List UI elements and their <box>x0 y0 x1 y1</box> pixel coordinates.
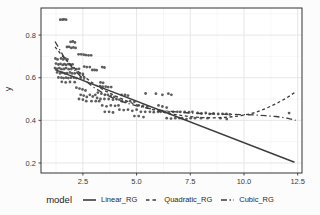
legend-title: model <box>46 194 72 205</box>
scatter-point <box>142 116 145 119</box>
legend-label-quadratic: Quadratic_RG <box>164 195 212 204</box>
scatter-point <box>144 110 147 113</box>
scatter-point <box>104 85 107 88</box>
scatter-point <box>77 53 80 56</box>
scatter-point <box>75 86 78 89</box>
scatter-point <box>94 93 97 96</box>
scatter-point <box>60 68 63 71</box>
scatter-point <box>108 110 111 113</box>
scatter-point <box>79 93 82 96</box>
legend-label-cubic: Cubic_RG <box>239 195 274 204</box>
scatter-point <box>90 100 93 103</box>
scatter-point <box>85 96 88 99</box>
scatter-point <box>94 100 97 103</box>
scatter-point <box>157 104 160 107</box>
scatter-point <box>122 109 125 112</box>
scatter-point <box>67 68 70 71</box>
x-tick-label: 2.5 <box>78 177 88 186</box>
scatter-point <box>118 108 121 111</box>
scatter-point <box>90 54 93 57</box>
scatter-point <box>133 115 136 118</box>
scatter-point <box>167 92 170 95</box>
scatter-point <box>112 98 115 101</box>
scatter-point <box>101 104 104 107</box>
scatter-point <box>105 105 108 108</box>
scatter-point <box>131 109 134 112</box>
scatter-point <box>127 94 130 97</box>
scatter-point <box>80 53 83 56</box>
scatter-point <box>170 93 173 96</box>
scatter-point <box>102 81 105 84</box>
scatter-point <box>103 110 106 113</box>
scatter-point <box>127 108 130 111</box>
scatter-point <box>161 93 164 96</box>
scatter-point <box>85 66 88 69</box>
legend-label-linear: Linear_RG <box>101 195 137 204</box>
scatter-point <box>73 72 76 75</box>
y-tick-label: 0.4 <box>26 116 36 125</box>
legend: model Linear_RG Quadratic_RG Cubic_RG <box>0 194 320 205</box>
scatter-point <box>78 98 81 101</box>
y-axis-title: y <box>3 87 13 92</box>
scatter-point <box>144 92 147 95</box>
scatter-point <box>55 62 58 65</box>
y-tick-label: 0.2 <box>26 159 36 168</box>
legend-entry-cubic: Cubic_RG <box>220 195 274 204</box>
scatter-point <box>110 86 113 89</box>
scatter-point <box>99 98 102 101</box>
scatter-point <box>114 104 117 107</box>
scatter-point <box>60 80 63 83</box>
scatter-point <box>97 91 100 94</box>
x-tick-label: 7.5 <box>185 177 195 186</box>
scatter-point <box>140 110 143 113</box>
chart-figure: 2.55.07.510.012.50.20.40.60.8 y model Li… <box>0 0 320 215</box>
legend-entry-linear: Linear_RG <box>82 195 137 204</box>
scatter-point <box>57 76 60 79</box>
x-tick-label: 10.0 <box>237 177 252 186</box>
scatter-point <box>165 117 168 120</box>
scatter-point <box>87 54 90 57</box>
y-tick-label: 0.8 <box>26 31 36 40</box>
scatter-point <box>67 77 70 80</box>
scatter-point <box>88 93 91 96</box>
scatter-point <box>84 89 87 92</box>
cubic-line-swatch-icon <box>220 196 235 204</box>
scatter-point <box>107 86 110 89</box>
scatter-point <box>85 54 88 57</box>
y-tick-label: 0.6 <box>26 73 36 82</box>
scatter-point <box>225 118 228 121</box>
scatter-point <box>85 100 88 103</box>
scatter-point <box>74 41 77 44</box>
scatter-point <box>161 105 164 108</box>
scatter-point <box>91 95 94 98</box>
linear-line-swatch-icon <box>82 196 97 204</box>
plot-area: 2.55.07.510.012.50.20.40.60.8 <box>0 0 320 192</box>
scatter-point <box>137 115 140 118</box>
scatter-point <box>165 106 168 109</box>
scatter-point <box>62 77 65 80</box>
scatter-point <box>56 58 59 61</box>
panel-background <box>41 8 302 173</box>
scatter-point <box>78 87 81 90</box>
scatter-point <box>65 67 68 70</box>
legend-entry-quadratic: Quadratic_RG <box>145 195 212 204</box>
scatter-point <box>65 18 68 21</box>
scatter-point <box>117 104 120 107</box>
scatter-point <box>82 98 85 101</box>
scatter-point <box>135 108 138 111</box>
scatter-point <box>83 65 86 68</box>
scatter-point <box>69 81 72 84</box>
scatter-point <box>82 94 85 97</box>
scatter-point <box>88 66 91 69</box>
scatter-point <box>152 111 155 114</box>
scatter-point <box>149 110 152 113</box>
scatter-point <box>107 98 110 101</box>
scatter-point <box>95 69 98 72</box>
scatter-point <box>109 104 112 107</box>
scatter-point <box>64 81 67 84</box>
x-tick-label: 12.5 <box>290 177 305 186</box>
scatter-point <box>103 98 106 101</box>
scatter-point <box>81 88 84 91</box>
quadratic-line-swatch-icon <box>145 196 160 204</box>
scatter-point <box>103 66 106 69</box>
